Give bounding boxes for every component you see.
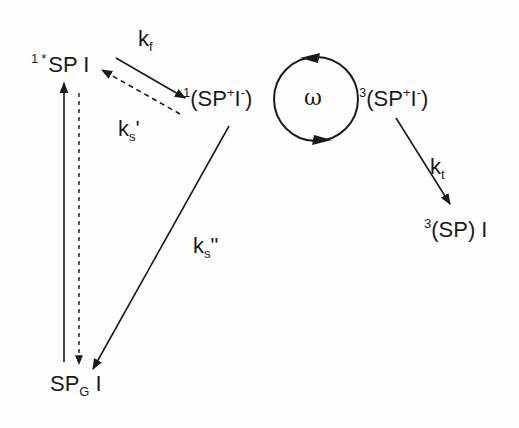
charge-plus: + (227, 85, 235, 100)
ks-double-prime-rate-label: ks" (193, 235, 218, 257)
rate-subscript: f (149, 39, 153, 54)
state-text: ) (421, 86, 428, 111)
rate-k: k (193, 233, 204, 258)
state-text: (SP (190, 86, 227, 111)
omega-top-arrowhead (300, 53, 320, 63)
multiplicity-superscript: 1 (31, 51, 38, 66)
multiplicity-superscript: 3 (424, 216, 431, 231)
prime-mark: ' (136, 116, 140, 141)
state-text: SP (50, 371, 79, 396)
singlet-radical-pair-label: 1(SP+I-) (183, 88, 252, 110)
reaction-scheme-diagram: 1*SP I 1(SP+I-) ω 3(SP+I-) 3(SP) I SPG I… (0, 0, 519, 428)
omega-label: ω (304, 87, 322, 109)
rate-subscript: s (204, 246, 211, 261)
ks-prime-arrow (102, 70, 180, 114)
state-text: (SP) I (431, 217, 487, 242)
state-text: (SP (366, 86, 403, 111)
rate-k: k (430, 154, 441, 179)
multiplicity-superscript: 3 (359, 85, 366, 100)
state-text: ) (245, 86, 252, 111)
excited-star: * (41, 51, 46, 66)
triplet-radical-pair-label: 3(SP+I-) (359, 88, 428, 110)
kf-rate-label: kf (138, 28, 153, 50)
charge-minus: - (241, 85, 245, 100)
state-text: SP I (48, 52, 89, 77)
charge-minus: - (417, 85, 421, 100)
ks-prime-rate-label: ks' (118, 118, 140, 140)
double-prime-mark: " (211, 233, 219, 258)
charge-plus: + (403, 85, 411, 100)
kt-rate-label: kt (430, 156, 445, 178)
state-text: I (411, 86, 417, 111)
multiplicity-superscript: 1 (183, 85, 190, 100)
rate-subscript: s (129, 129, 136, 144)
kf-arrow (116, 58, 185, 98)
ground-subscript: G (79, 384, 89, 399)
excited-singlet-state-label: 1*SP I (31, 54, 89, 76)
rate-k: k (118, 116, 129, 141)
state-text: I (89, 371, 101, 396)
triplet-product-label: 3(SP) I (424, 219, 487, 241)
ground-state-label: SPG I (50, 373, 102, 395)
rate-subscript: t (441, 167, 445, 182)
rate-k: k (138, 26, 149, 51)
omega-bottom-arrowhead (312, 135, 332, 145)
state-text: I (235, 86, 241, 111)
